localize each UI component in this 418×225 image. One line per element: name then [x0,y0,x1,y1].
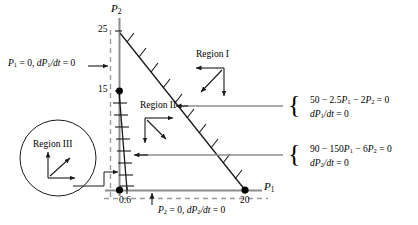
region-2-arrows [145,118,173,143]
region-1-arrows [196,68,224,96]
region-2-label: Region II [140,101,176,111]
point-0-15 [116,88,123,95]
region-3-circle-group [20,120,96,196]
x-axis-label: P1 [264,181,274,193]
y-axis-label: P2 [111,3,121,15]
isocline-p2-equation: 90 − 150P1 − 6P2 = 0 [310,145,392,155]
brace-isocline-p1: { [288,92,300,118]
region-3-arrows [48,152,75,178]
region-1-label: Region I [196,50,229,60]
left-axis-condition-label: P1 = 0, dP1/dt = 0 [8,59,75,69]
bottom-axis-condition-label: P2 = 0, dP2/dt = 0 [158,206,225,216]
y-tick-label-25: 25 [98,25,108,35]
point-origin [116,186,123,193]
point-markers [116,88,249,194]
isocline-p2-line-group [113,91,134,190]
region-3-circle [20,120,96,196]
isocline-p2-condition: dP2/dt = 0 [310,159,349,169]
leader-region-3 [73,172,118,186]
isocline-p1-equation: 50 − 2.5P1 − 2P2 = 0 [310,96,389,106]
point-20-0 [241,186,248,193]
phase-plane-figure: P2 P1 25 15 0.6 20 Region I Region II Re… [0,0,418,225]
region-3-label: Region III [33,140,72,150]
isocline-p1-condition: dP1/dt = 0 [310,110,349,120]
x-tick-label-0-6: 0.6 [119,196,131,206]
figure-canvas [0,0,418,225]
brace-isocline-p2: { [288,141,300,167]
x-tick-label-20: 20 [240,196,250,206]
dashed-guides [104,30,268,199]
y-tick-label-15: 15 [98,85,108,95]
